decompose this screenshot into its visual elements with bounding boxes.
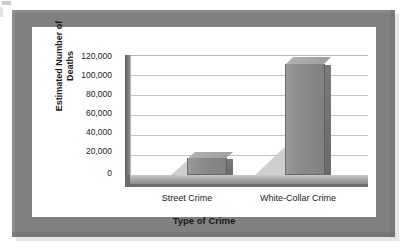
bar-street-crime-face: [187, 158, 227, 175]
chart-canvas: Estimated Number of Deaths 120,000 100,0…: [32, 27, 376, 217]
frame-highlight-left: [12, 10, 15, 237]
gridline-120000: [131, 55, 368, 56]
gridline-60000: [131, 115, 368, 116]
y-tick-label-120000: 120,000: [60, 51, 112, 61]
x-axis-title: Type of Crime: [32, 215, 376, 226]
bar-chart: Estimated Number of Deaths 120,000 100,0…: [32, 27, 376, 217]
frame-shade-bottom: [12, 232, 395, 237]
y-tick-label-100000: 100,000: [60, 70, 112, 80]
y-tick-label-20000: 20,000: [60, 146, 112, 156]
x-tick-label-street-crime: Street Crime: [142, 193, 232, 203]
x-tick-label-white-collar-crime: White-Collar Crime: [238, 193, 358, 203]
y-tick-label-40000: 40,000: [60, 127, 112, 137]
gridline-20000: [131, 155, 368, 156]
plot-floor: [125, 175, 368, 184]
plot-floor-front-edge: [125, 184, 368, 187]
gridline-80000: [131, 95, 368, 96]
scan-artifact-top: [2, 1, 11, 5]
scan-artifact-left: [0, 7, 3, 17]
chart-frame: Estimated Number of Deaths 120,000 100,0…: [12, 10, 395, 237]
y-tick-label-0: 0: [60, 168, 112, 178]
gridline-100000: [131, 75, 368, 76]
plot-left-wall-edge: [130, 55, 131, 175]
frame-shade-right: [390, 10, 395, 237]
y-tick-label-60000: 60,000: [60, 108, 112, 118]
bar-street-crime[interactable]: [187, 55, 233, 175]
gridline-40000: [131, 135, 368, 136]
bar-white-collar-crime-face: [285, 64, 325, 175]
bar-white-collar-crime[interactable]: [285, 55, 331, 175]
axis-corner: [125, 175, 130, 187]
y-tick-label-80000: 80,000: [60, 89, 112, 99]
plot-area: [125, 55, 368, 175]
y-axis-title: Estimated Number of Deaths: [54, 11, 76, 121]
